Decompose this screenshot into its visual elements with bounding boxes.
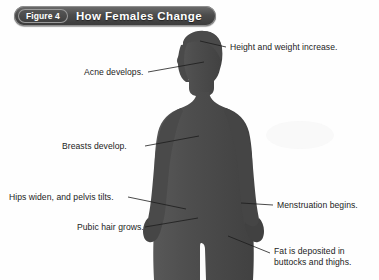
figure-page: Figure 4 How Females Change: [0, 0, 379, 280]
head-and-hair-shape: [177, 31, 222, 96]
callout-label-menstruation: Menstruation begins.: [277, 200, 358, 211]
callout-label-fat-deposits: Fat is deposited in buttocks and thighs.: [274, 246, 351, 268]
callout-label-height-weight: Height and weight increase.: [230, 42, 337, 53]
watermark-artifact: [266, 121, 334, 149]
callout-label-hips: Hips widen, and pelvis tilts.: [9, 192, 114, 203]
callout-label-acne: Acne develops.: [84, 67, 143, 78]
callout-label-pubic-hair: Pubic hair grows.: [77, 222, 144, 233]
callout-label-breasts: Breasts develop.: [62, 141, 127, 152]
